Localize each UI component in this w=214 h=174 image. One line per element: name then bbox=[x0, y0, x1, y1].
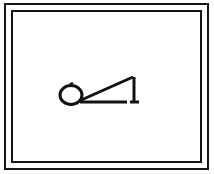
framed-drawing bbox=[0, 0, 214, 174]
image-canvas bbox=[0, 0, 214, 174]
head-notch-mark bbox=[70, 83, 73, 85]
